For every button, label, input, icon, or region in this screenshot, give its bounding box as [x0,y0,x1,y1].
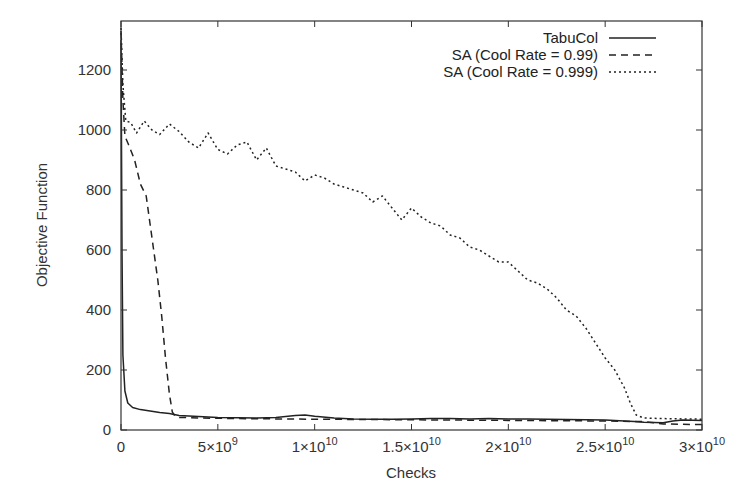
line-chart: 02004006008001000120005×1091×10101.5×101… [0,0,736,502]
y-tick-label: 200 [86,361,111,378]
y-tick-label: 400 [86,301,111,318]
legend-label: TabuCol [543,29,598,46]
y-tick-label: 600 [86,241,111,258]
y-tick-label: 0 [103,421,111,438]
legend-label: SA (Cool Rate = 0.99) [452,46,598,63]
y-tick-label: 1200 [78,61,111,78]
y-axis-title: Objective Function [33,163,50,287]
y-tick-label: 800 [86,181,111,198]
y-tick-label: 1000 [78,121,111,138]
legend-label: SA (Cool Rate = 0.999) [443,63,598,80]
x-tick-label: 0 [117,438,125,455]
x-axis-title: Checks [386,464,436,481]
